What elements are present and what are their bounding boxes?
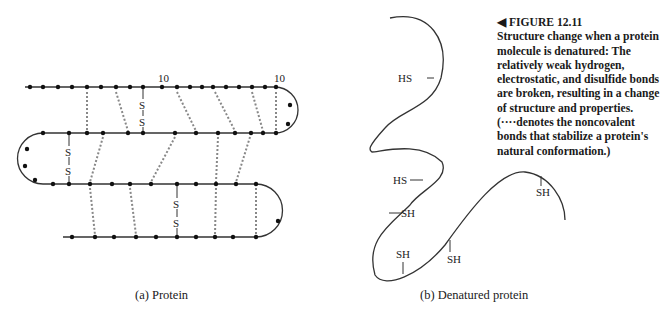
panel-b-caption: (b) Denatured protein [420, 288, 528, 303]
figure-caption: ◀ FIGURE 12.11 Structure change when a p… [497, 16, 667, 159]
svg-text:HS: HS [393, 174, 407, 186]
disulfide-labels: S S S S S S [64, 99, 182, 229]
svg-text:S: S [139, 116, 145, 128]
panel-a-caption: (a) Protein [135, 288, 188, 303]
svg-text:SH: SH [401, 207, 415, 219]
residue-label-10: 10 [274, 72, 286, 84]
svg-text:S: S [139, 99, 145, 111]
svg-text:HS: HS [398, 72, 412, 84]
svg-text:S: S [173, 217, 179, 229]
svg-text:S: S [173, 198, 179, 210]
figure-pointer-icon: ◀ [497, 16, 506, 29]
amino-acid-residues [23, 85, 292, 239]
figure-caption-text: Structure change when a protein molecule… [497, 30, 659, 157]
svg-text:S: S [65, 146, 71, 158]
svg-text:SH: SH [396, 248, 410, 260]
noncovalent-bonds [87, 92, 276, 235]
residue-label-10: 10 [158, 72, 170, 84]
figure-number: FIGURE 12.11 [509, 16, 582, 29]
svg-text:S: S [65, 165, 71, 177]
svg-text:SH: SH [536, 186, 550, 198]
svg-text:SH: SH [447, 253, 461, 265]
